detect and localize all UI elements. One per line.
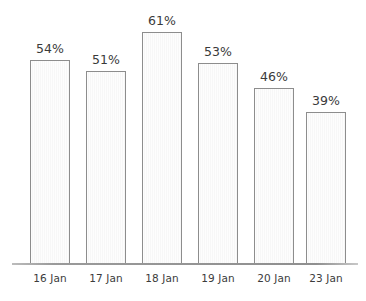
bar-value-label: 39%	[312, 93, 340, 108]
bar-value-label: 46%	[260, 69, 288, 84]
category-label: 20 Jan	[257, 272, 290, 284]
category-axis: 16 Jan 17 Jan 18 Jan 19 Jan 20 Jan 23 Ja…	[0, 272, 366, 292]
bar-rect[interactable]	[30, 60, 70, 264]
category-label: 16 Jan	[33, 272, 66, 284]
bar-rect[interactable]	[86, 71, 126, 264]
plot-area: 54% 51% 61% 53% 46% 39%	[0, 0, 366, 264]
category-label: 23 Jan	[309, 272, 342, 284]
bar-chart: 54% 51% 61% 53% 46% 39% 16 Jan 17 Jan 18…	[0, 0, 366, 301]
x-axis-line	[12, 263, 358, 265]
bar-value-label: 51%	[92, 52, 120, 67]
bar-rect[interactable]	[254, 88, 294, 264]
bar-value-label: 61%	[148, 13, 176, 28]
bar-value-label: 53%	[204, 44, 232, 59]
bar-rect[interactable]	[306, 112, 346, 264]
bar-rect[interactable]	[142, 32, 182, 264]
category-label: 17 Jan	[89, 272, 122, 284]
category-label: 19 Jan	[201, 272, 234, 284]
bar-rect[interactable]	[198, 63, 238, 264]
bar-value-label: 54%	[36, 41, 64, 56]
category-label: 18 Jan	[145, 272, 178, 284]
